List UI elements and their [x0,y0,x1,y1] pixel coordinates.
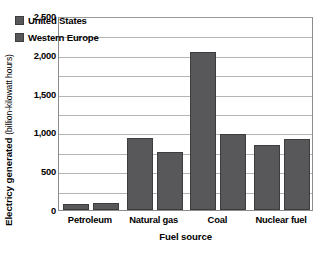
y-axis-title-unit: (billion-kilowatt hours) [4,54,14,135]
bar [220,134,246,210]
legend-swatch-icon [15,33,24,42]
bar [254,145,280,210]
legend-label: Western Europe [28,32,99,43]
x-axis-category-label: Petroleum [68,214,112,225]
legend-swatch-icon [15,16,24,25]
gridline [59,57,312,58]
x-axis-title: Fuel source [58,231,313,242]
y-axis-tick-label: 0 [14,206,56,216]
x-axis-category-label: Coal [208,214,228,225]
bar [93,203,119,210]
x-axis-category-label: Natural gas [129,214,178,225]
chart-legend: United States Western Europe [15,13,99,47]
bar [127,138,153,210]
legend-label: United States [28,15,87,26]
bar-chart-figure: Electricy generated (billion-kilowatt ho… [0,0,319,259]
y-axis-tick-label: 1,500 [14,90,56,100]
x-axis-category-label: Nuclear fuel [255,214,306,225]
bar [63,204,89,210]
bar [157,152,183,210]
legend-item-united-states: United States [15,13,99,27]
bar [190,52,216,210]
y-axis-tick-label: 2,000 [14,51,56,61]
gridline [59,115,312,116]
x-axis-category-labels: PetroleumNatural gasCoalNuclear fuel [58,214,313,228]
y-axis-title-main: Electricy generated [3,138,14,227]
gridline [59,76,312,77]
y-axis-tick-label: 500 [14,167,56,177]
gridline [59,96,312,97]
bar [284,139,310,210]
legend-item-western-europe: Western Europe [15,30,99,44]
y-axis-tick-label: 1,000 [14,128,56,138]
gridline [59,134,312,135]
